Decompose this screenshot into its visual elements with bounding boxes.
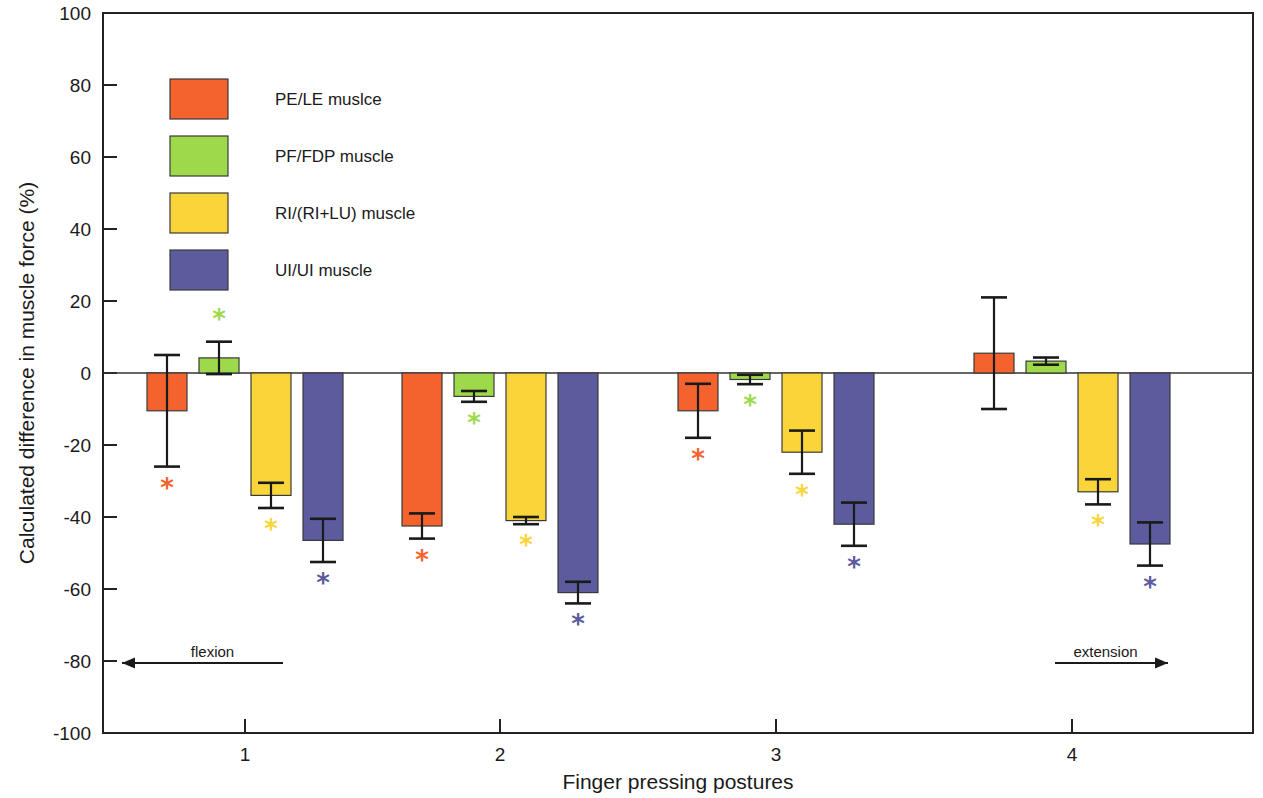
y-axis-title: Calculated difference in muscle force (%… — [15, 182, 38, 564]
significance-star: * — [691, 444, 705, 474]
bar — [402, 373, 442, 526]
y-tick-label: -100 — [53, 723, 91, 744]
bar — [303, 373, 343, 540]
y-tick-label: 40 — [70, 219, 91, 240]
significance-star: * — [1091, 510, 1105, 540]
significance-star: * — [743, 390, 757, 420]
bar — [506, 373, 546, 521]
x-tick-label: 4 — [1067, 744, 1078, 765]
significance-star: * — [212, 304, 226, 334]
significance-star: * — [847, 552, 861, 582]
y-tick-label: -20 — [64, 435, 91, 456]
legend-label: RI/(RI+LU) muscle — [275, 204, 415, 223]
y-tick-label: -80 — [64, 651, 91, 672]
y-tick-label: 0 — [80, 363, 91, 384]
y-tick-label: -40 — [64, 507, 91, 528]
significance-star: * — [519, 530, 533, 560]
y-tick-label: -60 — [64, 579, 91, 600]
chart-canvas: 100806040200-20-40-60-80-100 1234 ******… — [0, 0, 1263, 798]
y-tick-label: 100 — [59, 3, 91, 24]
x-tick-label: 2 — [495, 744, 506, 765]
legend-swatch — [170, 193, 228, 233]
legend-label: PF/FDP muscle — [275, 147, 394, 166]
legend-swatch — [170, 79, 228, 119]
legend-label: UI/UI muscle — [275, 261, 372, 280]
significance-star: * — [571, 609, 585, 639]
bar — [1078, 373, 1118, 492]
significance-star: * — [1143, 572, 1157, 602]
significance-star: * — [795, 480, 809, 510]
x-tick-label: 3 — [771, 744, 782, 765]
y-tick-label: 20 — [70, 291, 91, 312]
legend-label: PE/LE muslce — [275, 90, 382, 109]
legend-swatch — [170, 250, 228, 290]
legend-swatch — [170, 136, 228, 176]
x-tick-label: 1 — [240, 744, 251, 765]
flexion-annotation-label: flexion — [191, 643, 234, 660]
significance-star: * — [264, 514, 278, 544]
significance-star: * — [160, 473, 174, 503]
significance-star: * — [316, 568, 330, 598]
bar — [558, 373, 598, 593]
significance-star: * — [467, 408, 481, 438]
x-axis-title: Finger pressing postures — [562, 770, 793, 793]
bar — [1130, 373, 1170, 544]
extension-annotation-label: extension — [1073, 643, 1137, 660]
significance-star: * — [415, 545, 429, 575]
bar-chart: 100806040200-20-40-60-80-100 1234 ******… — [0, 0, 1263, 798]
y-tick-label: 80 — [70, 75, 91, 96]
bar — [251, 373, 291, 495]
y-tick-label: 60 — [70, 147, 91, 168]
